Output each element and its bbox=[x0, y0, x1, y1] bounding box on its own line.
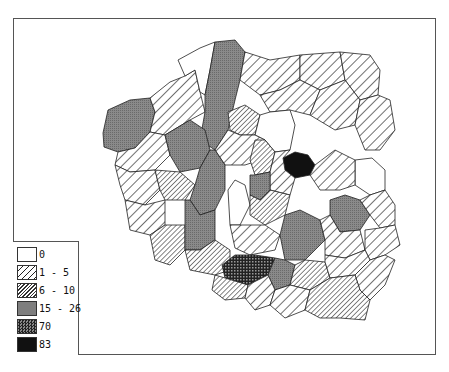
legend-item-4: 70 bbox=[17, 318, 51, 335]
legend-label: 0 bbox=[39, 249, 45, 260]
region-white-c2 bbox=[228, 180, 250, 225]
legend-item-1: 1 - 5 bbox=[17, 264, 69, 281]
region-s5 bbox=[270, 285, 310, 318]
legend-label: 6 - 10 bbox=[39, 285, 75, 296]
legend-label: 70 bbox=[39, 321, 51, 332]
legend: 0 1 - 5 6 - 10 15 - 26 70 83 bbox=[13, 241, 79, 355]
legend-swatch-gray bbox=[17, 301, 37, 316]
region-s1 bbox=[230, 225, 280, 255]
legend-item-3: 15 - 26 bbox=[17, 300, 81, 317]
legend-label: 83 bbox=[39, 339, 51, 350]
region-c-gray3 bbox=[280, 210, 325, 260]
legend-swatch-dense-hatch bbox=[17, 283, 37, 298]
legend-item-0: 0 bbox=[17, 246, 45, 263]
legend-swatch-black bbox=[17, 337, 37, 352]
legend-label: 1 - 5 bbox=[39, 267, 69, 278]
legend-item-2: 6 - 10 bbox=[17, 282, 75, 299]
region-w2 bbox=[115, 165, 160, 205]
region-white-e bbox=[355, 158, 385, 195]
legend-swatch-white bbox=[17, 247, 37, 262]
legend-swatch-sparse-hatch bbox=[17, 265, 37, 280]
region-se bbox=[365, 225, 400, 260]
legend-swatch-checker bbox=[17, 319, 37, 334]
region-e1 bbox=[310, 150, 355, 190]
legend-item-5: 83 bbox=[17, 336, 51, 353]
legend-label: 15 - 26 bbox=[39, 303, 81, 314]
region-ne5 bbox=[355, 95, 395, 150]
region-w3 bbox=[155, 170, 195, 200]
